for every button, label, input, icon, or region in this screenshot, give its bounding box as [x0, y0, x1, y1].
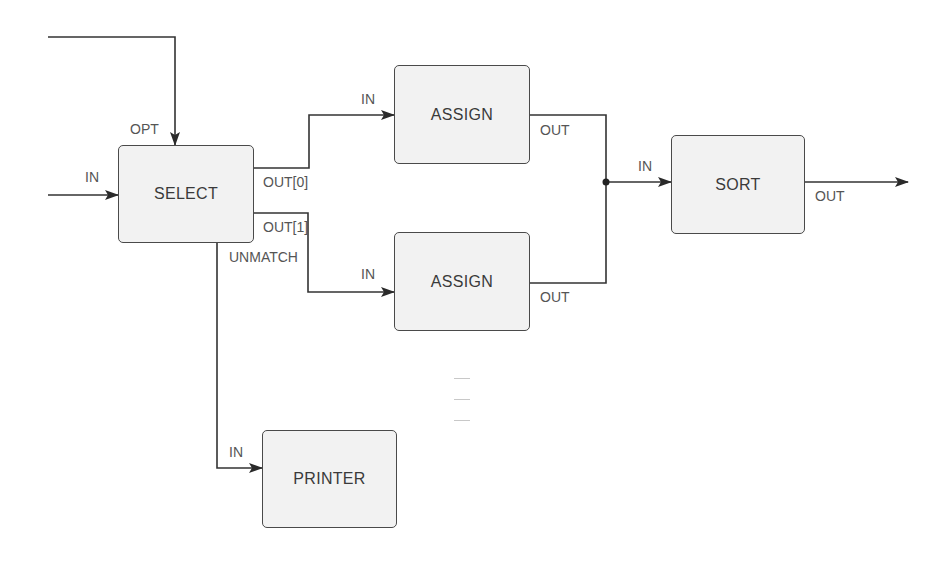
port-assign1-out: OUT: [540, 123, 570, 137]
port-select-opt: OPT: [130, 122, 159, 136]
printer-label: PRINTER: [293, 470, 365, 488]
junction-dot: [603, 179, 610, 186]
printer-node[interactable]: PRINTER: [262, 430, 397, 528]
select-node[interactable]: SELECT: [118, 145, 254, 243]
port-select-in: IN: [85, 170, 99, 184]
port-assign1-in: IN: [361, 92, 375, 106]
edge-out0-to-assign1: [254, 115, 394, 168]
resize-handle-mark: [454, 420, 470, 421]
port-select-out0: OUT[0]: [263, 175, 308, 189]
port-assign2-out: OUT: [540, 290, 570, 304]
port-sort-in: IN: [638, 159, 652, 173]
port-sort-out: OUT: [815, 189, 845, 203]
sort-node[interactable]: SORT: [671, 135, 805, 234]
port-select-unmatch: UNMATCH: [229, 250, 298, 264]
port-select-out1: OUT[1]: [263, 220, 308, 234]
assign-2-label: ASSIGN: [431, 273, 493, 291]
sort-label: SORT: [715, 176, 760, 194]
select-label: SELECT: [154, 185, 218, 203]
diagram-canvas: SELECT ASSIGN ASSIGN SORT PRINTER OPT IN…: [0, 0, 949, 562]
port-assign2-in: IN: [361, 267, 375, 281]
assign-node-2[interactable]: ASSIGN: [394, 232, 530, 331]
resize-handle-mark: [454, 399, 470, 400]
assign-node-1[interactable]: ASSIGN: [394, 65, 530, 164]
assign-1-label: ASSIGN: [431, 106, 493, 124]
port-printer-in: IN: [229, 445, 243, 459]
resize-handle-mark: [454, 378, 470, 379]
edge-assign2-out: [530, 182, 606, 283]
edge-unmatch-to-printer: [217, 243, 262, 468]
